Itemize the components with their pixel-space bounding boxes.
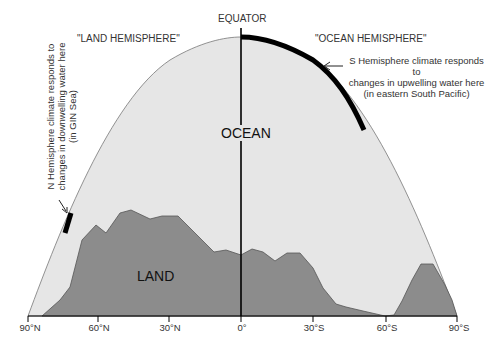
tick-60n: 60°N (88, 322, 109, 333)
tick-30s: 30°S (304, 322, 325, 333)
tick-90s: 90°S (449, 322, 470, 333)
tick-60s: 60°S (377, 322, 398, 333)
tick-30n: 30°N (159, 322, 180, 333)
north-hemisphere-note: N Hemisphere climate responds to changes… (45, 37, 78, 197)
equator-label: EQUATOR (218, 13, 267, 24)
tick-0: 0° (237, 322, 246, 333)
land-hemisphere-label: "LAND HEMISPHERE" (77, 33, 180, 44)
south-hemisphere-note: S Hemisphere climate responds to changes… (344, 55, 489, 99)
ocean-label: OCEAN (219, 125, 273, 141)
tick-90n: 90°N (19, 322, 40, 333)
land-label: LAND (137, 268, 174, 284)
ocean-hemisphere-label: "OCEAN HEMISPHERE" (315, 33, 427, 44)
